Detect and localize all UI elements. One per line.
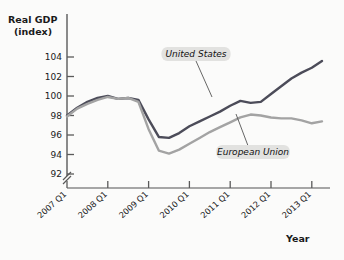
y-tick-label: 94	[51, 150, 63, 160]
x-tick-group: 2007 Q12008 Q12009 Q12010 Q12011 Q12012 …	[35, 181, 313, 220]
y-axis-title-line2: (index)	[14, 26, 52, 37]
x-tick-label: 2010 Q1	[158, 189, 191, 220]
chart-figure: Real GDP (index) 92949698100102104 2007 …	[0, 0, 344, 260]
x-tick-label: 2013 Q1	[280, 189, 313, 220]
y-tick-label: 102	[45, 72, 62, 82]
x-tick-label: 2011 Q1	[198, 189, 231, 220]
data-series-group	[67, 61, 322, 154]
x-tick-label: 2008 Q1	[76, 189, 109, 220]
x-tick-label: 2012 Q1	[239, 189, 272, 220]
annotation-group: United StatesEuropean Union	[161, 47, 289, 159]
line-chart: Real GDP (index) 92949698100102104 2007 …	[0, 0, 344, 260]
y-tick-label: 100	[45, 91, 62, 101]
y-tick-label: 96	[51, 130, 63, 140]
x-axis-title: Year	[285, 233, 310, 244]
y-tick-label: 104	[45, 52, 62, 62]
annotation-label: European Union	[217, 147, 289, 157]
y-tick-label: 98	[51, 111, 63, 121]
x-tick-label: 2009 Q1	[117, 189, 150, 220]
axis-lines	[67, 14, 330, 188]
y-axis-title-line1: Real GDP	[8, 14, 57, 25]
y-tick-label: 92	[51, 169, 62, 179]
series-line	[67, 61, 322, 138]
annotation-leader-line	[196, 61, 212, 97]
annotation-label: United States	[166, 49, 227, 59]
x-tick-label: 2007 Q1	[35, 189, 68, 220]
